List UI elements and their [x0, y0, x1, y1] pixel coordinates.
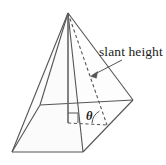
theta-angle-label: θ	[86, 110, 93, 123]
pyramid-svg	[0, 0, 166, 165]
slant-height-label: slant height	[99, 45, 163, 59]
pyramid-diagram: slant height θ	[0, 0, 166, 165]
